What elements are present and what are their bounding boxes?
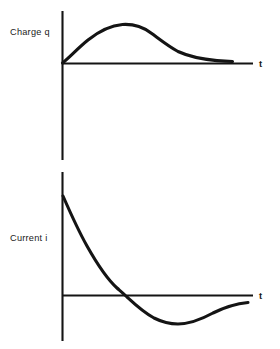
current-curve bbox=[63, 196, 248, 324]
current-x-axis-label: t bbox=[259, 290, 263, 301]
figure-root: Charge q t Current i t bbox=[0, 0, 280, 349]
charge-x-axis-label: t bbox=[259, 58, 263, 69]
charge-y-axis-label: Charge q bbox=[10, 27, 50, 37]
current-y-axis-label: Current i bbox=[10, 233, 47, 243]
charge-panel: Charge q t bbox=[10, 11, 263, 160]
current-panel: Current i t bbox=[10, 172, 263, 341]
charge-curve bbox=[63, 24, 233, 63]
physics-graph-figure: Charge q t Current i t bbox=[0, 0, 280, 349]
